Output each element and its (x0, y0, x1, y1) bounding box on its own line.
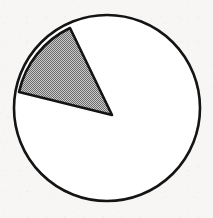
pie-circle-diagram: Circle with one shaded sector A plain bl… (0, 0, 213, 218)
figure-canvas: Circle with one shaded sector A plain bl… (0, 0, 213, 218)
